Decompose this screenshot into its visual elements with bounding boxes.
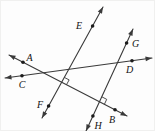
point-label-D: D	[125, 64, 134, 75]
point-label-F: F	[36, 99, 44, 110]
point-dot-E	[91, 24, 95, 28]
point-label-G: G	[132, 38, 139, 49]
point-dot-A	[21, 60, 25, 64]
point-label-C: C	[19, 79, 26, 90]
geometry-diagram: ABCDEFGH	[0, 0, 155, 131]
line-EF	[42, 7, 103, 118]
arrowhead-EF-start	[98, 7, 103, 14]
point-label-E: E	[75, 20, 82, 31]
arrowhead-GH-end	[86, 124, 91, 131]
point-label-H: H	[93, 120, 102, 131]
arrowhead-GH-start	[128, 29, 133, 36]
point-dot-D	[130, 59, 134, 63]
geometry-figure: ABCDEFGH	[1, 1, 155, 131]
arrowhead-CD-end	[145, 57, 152, 62]
point-dot-F	[47, 104, 51, 108]
point-label-B: B	[109, 114, 115, 125]
arrowhead-AB-start	[9, 55, 16, 60]
arrowhead-AB-end	[120, 111, 127, 116]
point-dot-C	[20, 74, 24, 78]
point-dot-G	[125, 41, 129, 45]
point-dot-B	[113, 108, 117, 112]
arrowhead-EF-end	[42, 111, 47, 118]
arrowhead-CD-start	[5, 75, 12, 80]
point-dot-H	[91, 114, 95, 118]
point-label-A: A	[25, 52, 33, 63]
